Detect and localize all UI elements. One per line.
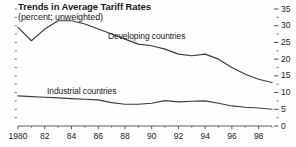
series-line-industrial-countries (18, 96, 272, 109)
x-axis-tick-label: 88 (111, 131, 139, 141)
axis-group (15, 9, 279, 129)
x-axis-tick-label: 84 (57, 131, 85, 141)
series-label-developing: Developing countries (108, 31, 185, 41)
x-axis-tick-label: 90 (138, 131, 166, 141)
series-line-developing-countries (18, 21, 272, 83)
y-axis-tick-label: 10 (281, 87, 290, 97)
x-axis-tick-label: 1980 (4, 131, 32, 141)
y-axis-tick-label: 25 (281, 37, 290, 47)
x-axis-tick-label: 98 (245, 131, 273, 141)
y-axis-tick-label: 0 (281, 121, 286, 131)
x-axis-tick-label: 94 (191, 131, 219, 141)
chart-figure: Trends in Average Tariff Rates (percent;… (0, 0, 296, 147)
x-axis-tick-label: 92 (164, 131, 192, 141)
y-axis-tick-label: 35 (281, 4, 290, 14)
x-axis-tick-label: 86 (84, 131, 112, 141)
y-axis-tick-label: 5 (281, 104, 286, 114)
x-axis-tick-label: 96 (218, 131, 246, 141)
series-label-industrial: Industrial countries (47, 86, 116, 96)
y-axis-tick-label: 20 (281, 54, 290, 64)
plot-area (0, 0, 296, 147)
x-axis-tick-label: 82 (31, 131, 59, 141)
y-axis-tick-label: 30 (281, 20, 290, 30)
y-axis-tick-label: 15 (281, 70, 290, 80)
